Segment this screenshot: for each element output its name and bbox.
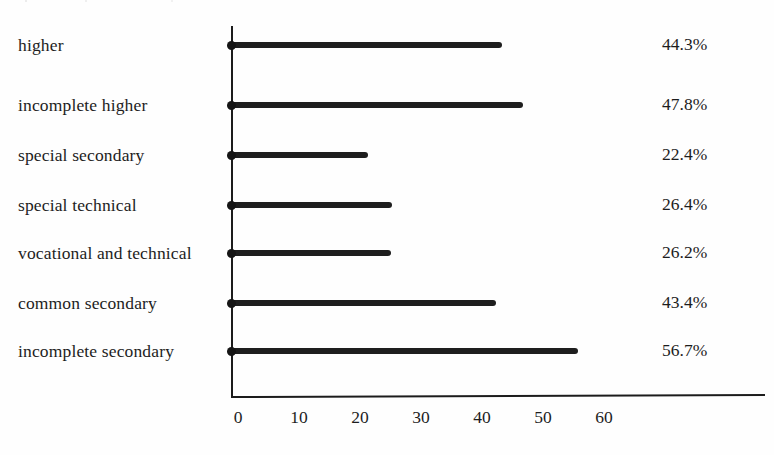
bar-origin-dot xyxy=(227,101,236,110)
category-label: common secondary xyxy=(18,290,157,316)
value-label: 56.7% xyxy=(662,337,707,363)
bar xyxy=(231,250,391,256)
category-label: incomplete secondary xyxy=(18,338,174,364)
category-label: special secondary xyxy=(18,142,144,168)
category-label: vocational and technical xyxy=(18,240,192,266)
x-tick-label: 0 xyxy=(218,405,258,429)
x-tick-label: 10 xyxy=(279,405,319,429)
bar xyxy=(231,202,392,208)
x-tick-label: 50 xyxy=(523,405,563,429)
value-label: 22.4% xyxy=(662,141,707,167)
x-tick-label: 30 xyxy=(401,405,441,429)
x-tick-label: 40 xyxy=(462,405,502,429)
bar xyxy=(231,102,523,108)
value-label: 26.4% xyxy=(662,191,707,217)
bar-origin-dot xyxy=(227,151,236,160)
bar-origin-dot xyxy=(227,41,236,50)
value-label: 44.3% xyxy=(662,31,707,57)
x-axis-line xyxy=(231,394,765,398)
bar xyxy=(231,42,502,48)
value-label: 47.8% xyxy=(662,91,707,117)
bar-origin-dot xyxy=(227,201,236,210)
category-label: incomplete higher xyxy=(18,92,147,118)
category-label: special technical xyxy=(18,192,137,218)
cropped-text-artifact xyxy=(22,0,282,4)
chart-figure: higher 44.3% incomplete higher 47.8% spe… xyxy=(0,0,774,455)
x-tick-label: 20 xyxy=(340,405,380,429)
bar-origin-dot xyxy=(227,249,236,258)
value-label: 26.2% xyxy=(662,239,707,265)
y-axis-line xyxy=(231,26,233,398)
bar xyxy=(231,348,578,354)
x-tick-label: 60 xyxy=(584,405,624,429)
bar xyxy=(231,300,496,306)
bar xyxy=(231,152,368,158)
value-label: 43.4% xyxy=(662,289,707,315)
bar-origin-dot xyxy=(227,299,236,308)
category-label: higher xyxy=(18,32,64,58)
bar-origin-dot xyxy=(227,347,236,356)
